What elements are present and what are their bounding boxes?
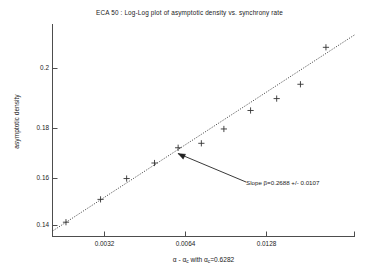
y-axis-ticks <box>53 69 58 226</box>
x-axis-label-middle: with α <box>189 256 208 263</box>
xtick-label-2: 0.0128 <box>241 240 292 247</box>
plot-area <box>0 0 379 277</box>
x-axis-ticks <box>105 232 355 237</box>
x-axis-label-suffix: =0.6282 <box>210 256 234 263</box>
xtick-label-1: 0.0064 <box>160 240 211 247</box>
x-axis-label-prefix: α - α <box>173 256 186 263</box>
ytick-label-0: 0.2 <box>16 64 49 71</box>
xtick-label-0: 0.0032 <box>79 240 130 247</box>
x-axis-label: α - αc with αc=0.6282 <box>52 256 355 264</box>
slope-annotation-label: Slope β=0.2688 +/- 0.0107 <box>246 179 319 186</box>
y-axis-label: asymptotic density <box>13 72 20 172</box>
ytick-label-3: 0.14 <box>16 221 49 228</box>
regression-fit-line <box>53 35 356 231</box>
ytick-label-1: 0.18 <box>16 124 49 131</box>
ytick-label-2: 0.16 <box>16 174 49 181</box>
figure-canvas: ECA 50 : Log-Log plot of asymptotic dens… <box>0 0 379 277</box>
slope-annotation-arrow <box>178 154 246 183</box>
